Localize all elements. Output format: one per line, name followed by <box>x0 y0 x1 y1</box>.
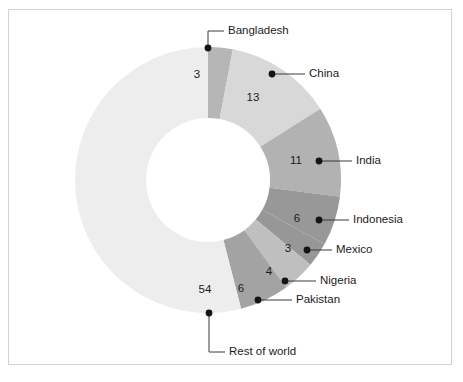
callout-label-china: China <box>309 67 340 79</box>
callout-label-rest-of-world: Rest of world <box>229 345 296 357</box>
leader-dot-nigeria <box>282 278 289 285</box>
slice-value-indonesia: 6 <box>294 212 300 224</box>
slice-value-pakistan: 6 <box>238 282 244 294</box>
callout-label-nigeria: Nigeria <box>320 274 357 286</box>
leader-dot-india <box>316 158 323 165</box>
donut-chart-figure: 31311634654 BangladeshChinaIndiaIndonesi… <box>0 0 463 382</box>
leader-dot-pakistan <box>255 297 262 304</box>
leader-dot-indonesia <box>316 217 323 224</box>
slice-value-rest-of-world: 54 <box>199 283 212 295</box>
chart-frame: 31311634654 BangladeshChinaIndiaIndonesi… <box>8 9 452 365</box>
leader-dot-bangladesh <box>205 45 212 52</box>
donut-slices-group <box>75 47 341 313</box>
leader-line-bangladesh <box>208 31 224 48</box>
callout-label-mexico: Mexico <box>336 243 372 255</box>
callout-label-bangladesh: Bangladesh <box>228 24 289 36</box>
callout-label-pakistan: Pakistan <box>296 293 340 305</box>
slice-value-nigeria: 4 <box>266 265 273 277</box>
callout-label-indonesia: Indonesia <box>353 213 403 225</box>
slice-value-india: 11 <box>290 154 302 166</box>
leader-dot-china <box>269 71 276 78</box>
slice-value-bangladesh: 3 <box>194 68 200 80</box>
slice-value-china: 13 <box>247 91 260 103</box>
slice-value-mexico: 3 <box>285 242 291 254</box>
donut-chart-svg: 31311634654 BangladeshChinaIndiaIndonesi… <box>9 10 451 364</box>
leader-dot-mexico <box>304 247 311 254</box>
leader-dot-rest-of-world <box>206 310 213 317</box>
leader-line-rest-of-world <box>209 313 225 352</box>
callout-label-india: India <box>356 154 382 166</box>
footer-note <box>8 369 455 382</box>
